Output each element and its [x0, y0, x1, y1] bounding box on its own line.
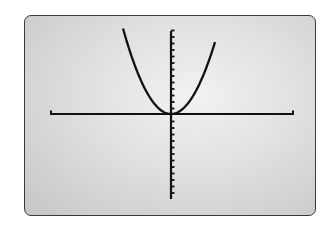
parabola-curve — [123, 29, 215, 115]
graph-plot — [0, 0, 330, 228]
